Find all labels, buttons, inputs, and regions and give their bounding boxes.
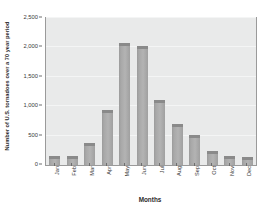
- x-axis-tick-label: Feb: [71, 166, 81, 172]
- y-axis-tick-label: 0: [35, 161, 38, 167]
- bar: [154, 100, 165, 165]
- y-axis-title-text: Number of U.S. tornadoes over a 70 year …: [4, 22, 10, 151]
- x-axis-tick-mark: [141, 163, 142, 166]
- y-axis-tick-mark: [39, 75, 42, 76]
- x-axis-tick-label: Jan: [54, 166, 63, 172]
- x-axis-tick-mark: [246, 163, 247, 166]
- x-axis-tick-label-text: Sep: [194, 166, 200, 176]
- bar: [137, 46, 148, 165]
- y-axis-tick-mark: [39, 105, 42, 106]
- bar-cap: [137, 46, 148, 49]
- x-axis-title: Months: [45, 196, 255, 203]
- y-axis-title: Number of U.S. tornadoes over a 70 year …: [0, 0, 14, 172]
- x-axis-tick-label: Aug: [176, 166, 186, 172]
- x-axis-tick-label-text: Nov: [229, 166, 235, 176]
- x-axis-tick-label-text: Mar: [89, 166, 95, 176]
- x-axis-tick-label-text: Jul: [159, 166, 165, 173]
- y-axis-tick-label: 2,000: [23, 43, 38, 49]
- y-axis-tick-label: 500: [28, 132, 38, 138]
- x-axis-tick-label-text: Feb: [71, 166, 77, 176]
- x-axis-tick-label: May: [124, 166, 135, 172]
- x-axis-tick-label-text: Aug: [176, 166, 182, 176]
- bar-body: [154, 103, 165, 165]
- y-axis-tick-mark: [39, 17, 42, 18]
- x-axis-tick-labels: JanFebMarAprMayJunJulAugSepOctNovDec: [45, 166, 255, 192]
- bar-body: [119, 46, 130, 165]
- x-axis-tick-mark: [71, 163, 72, 166]
- bar-cap: [84, 143, 95, 146]
- bar: [119, 43, 130, 165]
- y-axis-tick-label: 1,500: [23, 73, 38, 79]
- bar-cap: [224, 156, 235, 159]
- bar: [84, 143, 95, 165]
- bar: [189, 135, 200, 165]
- bar-cap: [207, 151, 218, 154]
- bar-body: [189, 138, 200, 165]
- x-axis-tick-mark: [194, 163, 195, 166]
- bar-cap: [242, 157, 253, 160]
- x-axis-tick-label-text: Jun: [141, 166, 147, 175]
- bar-body: [102, 113, 113, 165]
- x-axis-tick-mark: [229, 163, 230, 166]
- bar-cap: [154, 100, 165, 103]
- plot-area: [45, 17, 257, 166]
- bar-body: [172, 127, 183, 165]
- y-axis-tick-mark: [39, 164, 42, 165]
- bar-cap: [67, 156, 78, 159]
- x-axis-tick-label: Apr: [106, 166, 115, 172]
- bar: [172, 124, 183, 165]
- y-axis-tick-mark: [39, 134, 42, 135]
- y-axis-tick-labels: 05001,0001,5002,0002,500: [14, 10, 42, 170]
- x-axis-tick-mark: [211, 163, 212, 166]
- x-axis-tick-label: Mar: [89, 166, 99, 172]
- bar-cap: [172, 124, 183, 127]
- x-axis-tick-mark: [159, 163, 160, 166]
- x-axis-tick-label: Jul: [159, 166, 166, 172]
- y-axis-tick-mark: [39, 46, 42, 47]
- bar-cap: [189, 135, 200, 138]
- x-axis-tick-label: Dec: [246, 166, 256, 172]
- x-axis-tick-label-text: May: [124, 166, 130, 177]
- y-axis-tick-label: 1,000: [23, 102, 38, 108]
- x-axis-tick-label: Nov: [229, 166, 239, 172]
- x-axis-tick-mark: [106, 163, 107, 166]
- y-axis-tick-label: 2,500: [23, 14, 38, 20]
- x-axis-tick-label: Jun: [141, 166, 150, 172]
- x-axis-tick-mark: [89, 163, 90, 166]
- x-axis-tick-label: Sep: [194, 166, 204, 172]
- bar-cap: [102, 110, 113, 113]
- bar-chart-figure: Number of U.S. tornadoes over a 70 year …: [0, 0, 273, 224]
- x-axis-tick-label: Oct: [211, 166, 220, 172]
- bar-cap: [49, 156, 60, 159]
- bar: [102, 110, 113, 165]
- bar-series: [46, 18, 256, 165]
- x-axis-tick-mark: [124, 163, 125, 166]
- x-axis-tick-label-text: Dec: [246, 166, 252, 176]
- x-axis-tick-label-text: Jan: [54, 166, 60, 175]
- x-axis-tick-label-text: Oct: [211, 166, 217, 175]
- x-axis-tick-label-text: Apr: [106, 166, 112, 175]
- x-axis-tick-mark: [176, 163, 177, 166]
- bar-body: [137, 49, 148, 165]
- x-axis-tick-mark: [54, 163, 55, 166]
- bar-cap: [119, 43, 130, 46]
